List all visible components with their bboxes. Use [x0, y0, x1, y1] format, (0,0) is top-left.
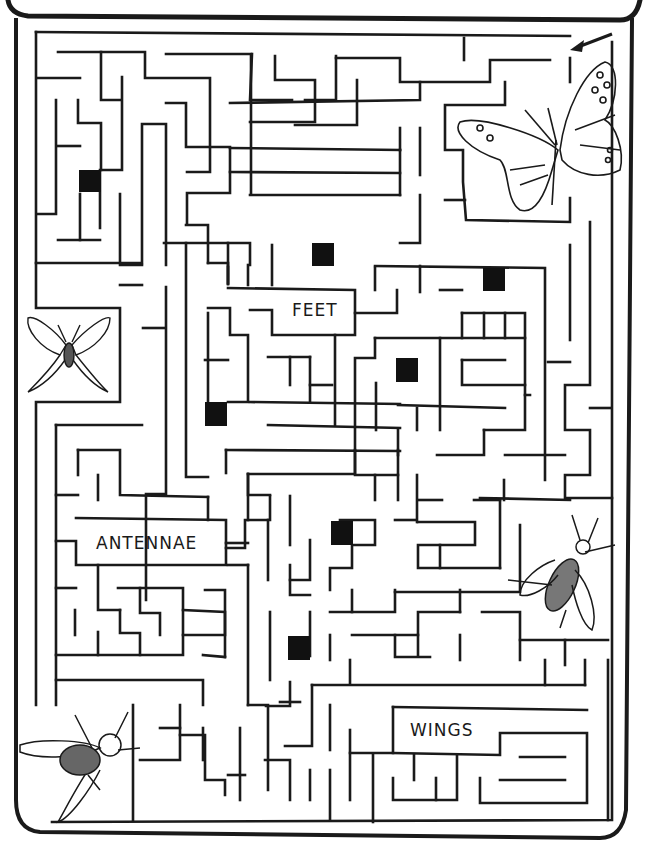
maze-puzzle: FEET ANTENNAE WINGS	[0, 0, 645, 852]
fly-icon	[20, 712, 140, 822]
butterfly-icon	[458, 62, 621, 211]
moth-icon	[28, 318, 110, 392]
maze-walls	[0, 0, 645, 852]
wings-label: WINGS	[410, 720, 474, 740]
bee-icon	[508, 515, 615, 630]
arrow-icon	[570, 34, 612, 52]
feet-label: FEET	[292, 300, 338, 320]
antennae-label: ANTENNAE	[96, 533, 197, 553]
